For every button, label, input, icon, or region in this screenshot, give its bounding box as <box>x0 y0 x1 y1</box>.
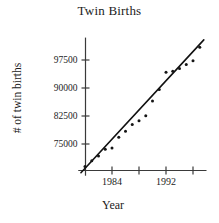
plot-area: 75000825009000097500 19841992 <box>0 0 219 223</box>
data-point <box>198 46 201 49</box>
data-point <box>97 154 100 157</box>
y-tick-label: 97500 <box>54 55 78 65</box>
y-tick-label: 82500 <box>54 111 78 121</box>
y-tick-label: 90000 <box>54 83 78 93</box>
y-axis: 75000825009000097500 <box>54 38 90 176</box>
x-tick-label: 1984 <box>102 176 122 187</box>
y-tick-label: 75000 <box>54 139 78 149</box>
data-point <box>124 130 127 133</box>
data-point <box>138 119 141 122</box>
chart-container: Twin Births # of twin births Year 750008… <box>0 0 219 223</box>
data-point <box>151 100 154 103</box>
data-point <box>185 63 188 66</box>
x-tick-label: 1992 <box>156 176 176 187</box>
data-point <box>192 59 195 62</box>
data-point <box>111 147 114 150</box>
data-point <box>84 165 87 168</box>
data-point <box>144 114 147 117</box>
data-point <box>178 67 181 70</box>
data-point <box>90 159 93 162</box>
data-point <box>165 71 168 74</box>
data-point <box>104 148 107 151</box>
data-point <box>158 88 161 91</box>
data-point <box>117 136 120 139</box>
data-point <box>171 70 174 73</box>
x-axis: 19841992 <box>78 167 206 187</box>
trend-line <box>81 40 204 173</box>
data-point <box>131 123 134 126</box>
